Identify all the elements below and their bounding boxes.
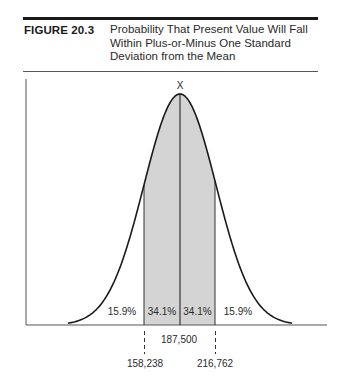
region-label-right-center: 34.1% — [183, 306, 211, 317]
tick-label-plus-one-sd: 216,762 — [197, 358, 234, 369]
region-label-left-tail: 15.9% — [108, 306, 136, 317]
normal-distribution-chart: X 15.9% 34.1% 34.1% 15.9% 158,238 187,50… — [0, 0, 348, 389]
tick-label-minus-one-sd: 158,238 — [127, 358, 164, 369]
region-label-left-center: 34.1% — [148, 306, 176, 317]
region-label-right-tail: 15.9% — [224, 306, 252, 317]
mean-symbol: X — [177, 80, 184, 91]
tick-label-mean: 187,500 — [161, 334, 198, 345]
